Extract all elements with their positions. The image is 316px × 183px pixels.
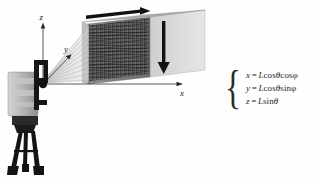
y-axis-label: y bbox=[63, 44, 68, 54]
scanner-tribrach bbox=[12, 116, 38, 125]
figure-canvas: z y x bbox=[0, 0, 316, 183]
wall-side-face bbox=[150, 10, 205, 77]
equation-block: { x=Lcosθcosφ y=Lcosθsinφ z=Lsinθ bbox=[222, 58, 316, 118]
equation-x-fn1: cos bbox=[264, 70, 276, 80]
x-axis-label: x bbox=[179, 88, 184, 98]
laser-scanner bbox=[7, 60, 48, 175]
equation-y-fn1: cos bbox=[264, 83, 276, 93]
equation-x: x=Lcosθcosφ bbox=[246, 70, 298, 80]
equation-y-phi: φ bbox=[291, 83, 296, 93]
equation-z-theta: θ bbox=[274, 96, 279, 106]
equation-y-fn2: sin bbox=[280, 83, 291, 93]
tripod bbox=[7, 131, 44, 175]
x-axis-arrowhead bbox=[177, 82, 184, 87]
equation-x-fn2: cos bbox=[280, 70, 292, 80]
z-axis-arrowhead bbox=[41, 23, 46, 29]
equation-z-fn1: sin bbox=[263, 96, 274, 106]
equation-x-phi: φ bbox=[293, 70, 298, 80]
equation-list: x=Lcosθcosφ y=Lcosθsinφ z=Lsinθ bbox=[246, 70, 298, 106]
equation-brace: { bbox=[225, 70, 240, 107]
laser-beam-fan bbox=[42, 25, 89, 83]
scanner-head bbox=[34, 60, 48, 110]
z-axis-label: z bbox=[39, 12, 44, 22]
equation-y: y=Lcosθsinφ bbox=[246, 83, 298, 93]
target-wall bbox=[82, 10, 205, 86]
scanner-diagram: z y x bbox=[0, 0, 218, 183]
equation-z-eq: = bbox=[250, 96, 258, 106]
equation-z: z=Lsinθ bbox=[246, 96, 298, 106]
